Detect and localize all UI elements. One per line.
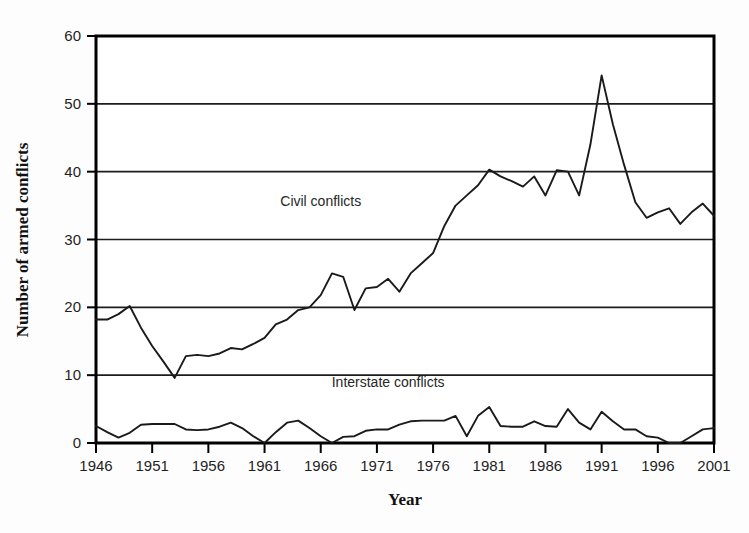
x-tick-label-1961: 1961 xyxy=(248,457,281,474)
civil-conflicts-label: Civil conflicts xyxy=(280,193,361,209)
x-axis-tick-labels: 1946195119561961196619711976198119861991… xyxy=(79,457,730,474)
y-axis-title: Number of armed conflicts xyxy=(13,142,32,337)
x-tick-label-1951: 1951 xyxy=(135,457,168,474)
x-tick-label-1956: 1956 xyxy=(192,457,225,474)
interstate-conflicts-label: Interstate conflicts xyxy=(332,374,445,390)
y-tick-label-40: 40 xyxy=(64,163,81,180)
x-tick-label-2001: 2001 xyxy=(697,457,730,474)
y-tick-label-0: 0 xyxy=(73,434,81,451)
armed-conflicts-line-chart: 0102030405060 19461951195619611966197119… xyxy=(0,0,749,533)
chart-figure: 0102030405060 19461951195619611966197119… xyxy=(0,0,749,533)
y-tick-label-20: 20 xyxy=(64,298,81,315)
x-tick-label-1986: 1986 xyxy=(529,457,562,474)
x-tick-label-1991: 1991 xyxy=(585,457,618,474)
x-tick-label-1981: 1981 xyxy=(473,457,506,474)
y-tick-label-10: 10 xyxy=(64,366,81,383)
y-tick-label-50: 50 xyxy=(64,95,81,112)
x-tick-label-1966: 1966 xyxy=(304,457,337,474)
x-tick-label-1996: 1996 xyxy=(641,457,674,474)
y-tick-label-30: 30 xyxy=(64,231,81,248)
y-axis-tick-labels: 0102030405060 xyxy=(64,27,81,451)
x-axis-title: Year xyxy=(388,490,422,509)
x-tick-label-1946: 1946 xyxy=(79,457,112,474)
x-tick-label-1976: 1976 xyxy=(416,457,449,474)
x-tick-label-1971: 1971 xyxy=(360,457,393,474)
y-tick-label-60: 60 xyxy=(64,27,81,44)
